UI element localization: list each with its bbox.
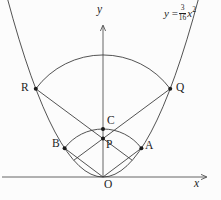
equation-label: y =316x2 (164, 4, 196, 22)
point-label-Q: Q (176, 82, 184, 94)
equation-fraction: 316 (179, 4, 187, 22)
point-label-B: B (52, 138, 60, 150)
point-label-R: R (21, 82, 29, 94)
chord-R-through-P (36, 89, 132, 160)
y-axis-label: y (97, 4, 102, 16)
point-dot-P (101, 137, 105, 141)
figure-canvas: O x y y =316x2 RQBACP (0, 0, 221, 200)
point-dot-Q (168, 87, 172, 91)
point-label-C: C (107, 115, 115, 127)
equation-lhs: y (164, 7, 169, 19)
point-dot-R (34, 87, 38, 91)
point-dot-B (63, 146, 67, 150)
x-axis-label: x (194, 178, 199, 190)
equation-denominator: 16 (179, 14, 187, 23)
equation-exponent: 2 (192, 5, 196, 14)
chord-Q-through-P (74, 89, 170, 160)
origin-label: O (104, 179, 112, 191)
equation-equals: = (172, 7, 178, 19)
point-label-A: A (145, 140, 153, 152)
point-label-P: P (106, 139, 112, 151)
parabola-diagram (0, 0, 221, 200)
point-dot-A (139, 146, 143, 150)
point-dot-C (101, 127, 105, 131)
